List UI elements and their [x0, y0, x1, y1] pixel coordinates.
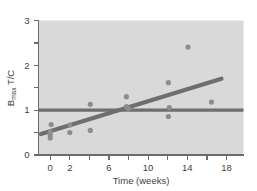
data-point	[167, 105, 172, 110]
scatter-plot: 0 1 2 3 0 2 6 10 14 18 Time (weeks) Bmax…	[0, 0, 257, 191]
chart-figure: 0 1 2 3 0 2 6 10 14 18 Time (weeks) Bmax…	[0, 0, 257, 191]
data-point	[124, 94, 129, 99]
y-tick-label-3: 3	[24, 15, 29, 26]
data-point	[49, 122, 54, 127]
data-point	[88, 102, 93, 107]
data-point	[166, 114, 171, 119]
x-tick-label-0: 0	[48, 162, 53, 173]
data-point	[48, 135, 53, 140]
data-point	[48, 129, 53, 134]
data-point	[185, 45, 190, 50]
x-tick-label-18: 18	[221, 162, 232, 173]
y-axis-title-tail: T/C	[5, 70, 16, 88]
x-axis-title: Time (weeks)	[113, 175, 170, 186]
x-tick-label-14: 14	[182, 162, 193, 173]
y-axis-title: Bmax T/C	[5, 70, 17, 107]
data-point	[67, 122, 72, 127]
svg-text:Bmax T/C: Bmax T/C	[5, 70, 17, 107]
data-point	[166, 80, 171, 85]
data-point	[126, 106, 131, 111]
y-axis-title-subscript: max	[10, 87, 17, 100]
y-tick-label-0: 0	[24, 149, 29, 160]
y-tick-label-2: 2	[24, 60, 29, 71]
data-point	[209, 100, 214, 105]
data-point	[67, 130, 72, 135]
x-tick-label-6: 6	[106, 162, 111, 173]
x-tick-label-2: 2	[67, 162, 72, 173]
data-point	[88, 128, 93, 133]
y-tick-label-1: 1	[24, 104, 29, 115]
x-tick-label-10: 10	[143, 162, 154, 173]
